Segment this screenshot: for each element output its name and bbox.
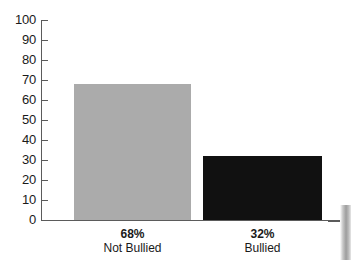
y-axis-tick-label-text: 40 — [2, 133, 36, 146]
y-axis-tick-label: 50 — [0, 113, 36, 126]
y-axis-tick-label: 20 — [0, 173, 36, 186]
y-axis-tick — [41, 40, 48, 41]
y-axis-tick-label-text: 10 — [2, 193, 36, 206]
y-axis-tick-label-text: 70 — [2, 73, 36, 86]
category-label: 32%Bullied — [203, 227, 322, 255]
y-axis-tick-label-text: 100 — [2, 13, 36, 26]
category-value-percent: 32% — [203, 227, 322, 241]
y-axis-tick — [41, 100, 48, 101]
y-axis-tick-label: 70 — [0, 73, 36, 86]
y-axis-tick-label-text: 20 — [2, 173, 36, 186]
x-axis-line — [41, 220, 340, 221]
y-axis-tick-label: 60 — [0, 93, 36, 106]
y-axis-tick-label: 30 — [0, 153, 36, 166]
y-axis-tick — [41, 20, 48, 21]
y-axis-tick-label: 0 — [0, 213, 36, 226]
bar-chart: 1009080706050403020100 68%Not Bullied32%… — [0, 0, 351, 260]
y-axis-tick-label: 80 — [0, 53, 36, 66]
y-axis-tick-label-text: 30 — [2, 153, 36, 166]
category-name: Bullied — [203, 241, 322, 255]
category-label: 68%Not Bullied — [74, 227, 191, 255]
page-edge-strip — [340, 205, 351, 260]
bar-bullied — [203, 156, 322, 220]
y-axis-tick-label-text: 60 — [2, 93, 36, 106]
y-axis-tick-label: 100 — [0, 13, 36, 26]
y-axis-tick — [41, 140, 48, 141]
page-edge-rule — [328, 221, 340, 222]
y-axis-tick-label-text: 50 — [2, 113, 36, 126]
bar-not-bullied — [74, 84, 191, 220]
y-axis-tick — [41, 160, 48, 161]
y-axis-tick-label-text: 80 — [2, 53, 36, 66]
y-axis-tick — [41, 200, 48, 201]
category-value-percent: 68% — [74, 227, 191, 241]
y-axis-tick — [41, 120, 48, 121]
category-name: Not Bullied — [74, 241, 191, 255]
y-axis-tick-label-text: 90 — [2, 33, 36, 46]
y-axis-tick-label: 10 — [0, 193, 36, 206]
y-axis-tick-label-text: 0 — [2, 213, 36, 226]
y-axis-tick — [41, 180, 48, 181]
y-axis-tick-label: 40 — [0, 133, 36, 146]
y-axis-tick — [41, 80, 48, 81]
y-axis-tick — [41, 60, 48, 61]
y-axis-tick-label: 90 — [0, 33, 36, 46]
